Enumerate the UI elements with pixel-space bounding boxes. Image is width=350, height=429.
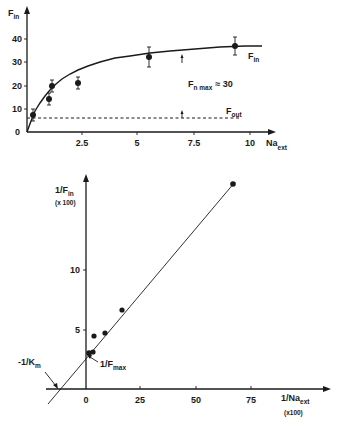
bottom-y-arrow-icon — [83, 174, 89, 182]
fmax-intercept-annotation: 1/Fmax — [100, 359, 126, 371]
small-arrow-icon — [181, 110, 184, 118]
data-point — [91, 333, 96, 338]
top-ytick-40: 40 — [12, 34, 22, 44]
top-chart: 0 10 20 30 40 2.5 5 7.5 10 Fin Naext — [8, 6, 288, 151]
top-x-ticks: 2.5 5 7.5 10 — [76, 132, 255, 148]
figure: 0 10 20 30 40 2.5 5 7.5 10 Fin Naext — [0, 0, 350, 429]
top-x-label: Naext — [266, 138, 288, 151]
data-point — [90, 349, 95, 354]
top-ytick-20: 20 — [12, 81, 22, 91]
top-xtick-10: 10 — [245, 138, 255, 148]
top-ytick-10: 10 — [12, 104, 22, 114]
top-y-arrow-icon — [24, 6, 30, 14]
data-point — [102, 330, 107, 335]
bottom-x-arrow-icon — [323, 386, 331, 392]
fmax-annotation: Fn max≈ 30 — [188, 79, 233, 91]
top-xtick-7.5: 7.5 — [188, 138, 201, 148]
data-point — [230, 181, 236, 187]
bottom-xtick-25: 25 — [135, 395, 145, 405]
bottom-x-label: 1/Naext — [281, 393, 310, 405]
top-y-ticks: 0 10 20 30 40 — [12, 34, 27, 137]
bottom-xtick-75: 75 — [246, 395, 256, 405]
bottom-y-scale: (x 100) — [55, 199, 76, 207]
bottom-y-label: 1/Fin — [55, 185, 74, 197]
fmax-pointer-arrow-icon — [90, 357, 98, 362]
km-annotation: -1/Km — [18, 357, 41, 369]
small-arrow-icon — [181, 54, 184, 63]
bottom-chart: 5 10 0 25 50 75 1/Fin (x 100) 1/Naext (x… — [18, 174, 331, 417]
bottom-ytick-5: 5 — [75, 325, 80, 335]
data-point — [119, 307, 124, 312]
bottom-x-scale: (x100) — [284, 409, 303, 417]
top-xtick-5: 5 — [134, 138, 139, 148]
bottom-xtick-0: 0 — [83, 395, 88, 405]
fin-fit-curve — [27, 46, 262, 132]
km-pointer-arrow-icon — [45, 372, 56, 386]
bottom-xtick-50: 50 — [191, 395, 201, 405]
data-point — [232, 37, 238, 55]
top-ytick-0: 0 — [15, 127, 20, 137]
lineweaver-burk-fit-line — [48, 182, 235, 404]
data-point — [146, 47, 152, 67]
fout-label: Fout — [226, 106, 242, 118]
top-y-label: Fin — [8, 8, 19, 20]
data-point — [75, 77, 81, 89]
top-ytick-30: 30 — [12, 57, 22, 67]
fin-curve-label: Fin — [248, 51, 259, 63]
top-xtick-2.5: 2.5 — [76, 138, 89, 148]
bottom-ytick-10: 10 — [70, 265, 80, 275]
top-x-arrow-icon — [268, 129, 276, 135]
